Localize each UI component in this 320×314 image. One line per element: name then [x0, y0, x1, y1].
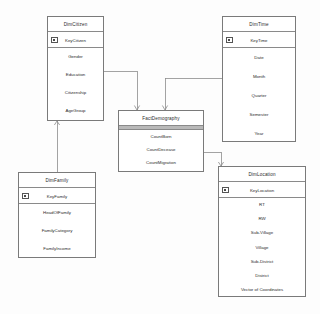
attribute-row: Vector of Coordinates — [219, 283, 305, 297]
connector-citizen-fact — [104, 71, 137, 110]
attribute-row: Semester — [223, 105, 295, 124]
attribute-row: Village — [219, 241, 305, 255]
attribute-row: Citizenship — [48, 84, 103, 102]
attribute-row: FamilyIncome — [19, 240, 95, 258]
entity-dim-location[interactable]: DimLocation KeyLocation RT RW Sub-Villag… — [218, 166, 306, 297]
pk-label-dim-citizen: KeyCitizen — [48, 37, 103, 42]
connector-fact-location — [204, 152, 221, 166]
entity-fact-demography[interactable]: FactDemography CountBorn CountDecease Co… — [118, 110, 204, 172]
pk-row-dim-location: KeyLocation — [219, 182, 305, 198]
attribute-row: District — [219, 269, 305, 283]
measure-row: CountMigration — [119, 156, 203, 169]
measure-list-fact-demography: CountBorn CountDecease CountMigration — [119, 130, 203, 169]
attribute-list-dim-location: RT RW Sub-Village Village Sub-District D… — [219, 198, 305, 297]
measure-row: CountBorn — [119, 130, 203, 143]
entity-title-dim-location: DimLocation — [219, 167, 305, 182]
entity-title-dim-time: DimTime — [223, 17, 295, 32]
attribute-row: FamilyCategory — [19, 222, 95, 240]
attribute-row: Quarter — [223, 86, 295, 105]
attribute-row: RT — [219, 198, 305, 212]
pk-row-dim-family: KeyFamily — [19, 188, 95, 204]
attribute-list-dim-family: HeadOfFamily FamilyCategory FamilyIncome — [19, 204, 95, 258]
pk-label-dim-family: KeyFamily — [19, 193, 95, 198]
attribute-row: RW — [219, 212, 305, 226]
attribute-row: Sub-Village — [219, 226, 305, 240]
entity-title-dim-citizen: DimCitizen — [48, 17, 103, 32]
pk-label-dim-time: KeyTime — [223, 37, 295, 42]
attribute-list-dim-citizen: Gender Education Citizenship AgeGroup — [48, 48, 103, 120]
pk-row-dim-time: KeyTime — [223, 32, 295, 48]
attribute-row: Date — [223, 48, 295, 67]
attribute-row: Sub-District — [219, 255, 305, 269]
attribute-row: HeadOfFamily — [19, 204, 95, 222]
attribute-row: Gender — [48, 48, 103, 66]
entity-dim-family[interactable]: DimFamily KeyFamily HeadOfFamily FamilyC… — [18, 172, 96, 258]
entity-title-fact-demography: FactDemography — [119, 111, 203, 126]
attribute-list-dim-time: Date Month Quarter Semester Year — [223, 48, 295, 143]
pk-row-dim-citizen: KeyCitizen — [48, 32, 103, 48]
measure-row: CountDecease — [119, 143, 203, 156]
attribute-row: AgeGroup — [48, 102, 103, 120]
attribute-row: Year — [223, 124, 295, 143]
connector-time-fact — [165, 78, 222, 110]
pk-label-dim-location: KeyLocation — [219, 187, 305, 192]
entity-dim-citizen[interactable]: DimCitizen KeyCitizen Gender Education C… — [47, 16, 104, 121]
attribute-row: Education — [48, 66, 103, 84]
entity-title-dim-family: DimFamily — [19, 173, 95, 188]
entity-dim-time[interactable]: DimTime KeyTime Date Month Quarter Semes… — [222, 16, 296, 142]
attribute-row: Month — [223, 67, 295, 86]
diagram-canvas: DimCitizen KeyCitizen Gender Education C… — [0, 0, 320, 314]
